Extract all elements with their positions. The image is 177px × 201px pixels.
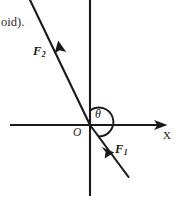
- force-1-subscript: 1: [124, 148, 128, 157]
- force-1-symbol: F: [115, 142, 123, 156]
- force-2-subscript: 2: [42, 50, 46, 59]
- force-2-arrowhead: [55, 41, 67, 54]
- angle-theta-label: θ: [95, 108, 101, 120]
- angle-arc-theta: [90, 108, 113, 137]
- origin-label: O: [73, 127, 81, 139]
- cropped-text-fragment: oid).: [1, 16, 24, 29]
- force-2-symbol: F: [33, 44, 41, 58]
- force-line-upper-f2: [30, 0, 90, 125]
- force-2-label: F2: [33, 45, 45, 58]
- x-axis-label: X: [163, 130, 171, 141]
- force-1-label: F1: [115, 143, 127, 156]
- diagram-canvas: [0, 0, 177, 201]
- force-vector-diagram: oid). F2 F1 θ O X: [0, 0, 177, 201]
